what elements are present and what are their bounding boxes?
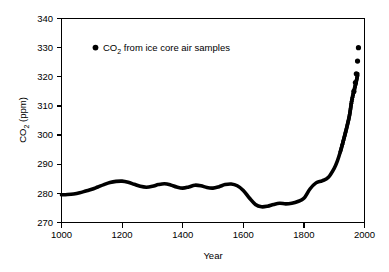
y-tick-label-270: 270 [37,217,53,228]
series-isolated-data-point [351,89,356,94]
legend-label-rest: from ice core air samples [121,42,230,53]
y-tick-label-280: 280 [37,188,53,199]
x-tick-label-1400: 1400 [172,229,193,240]
series-isolated-data-point [353,80,358,85]
y-axis-title-unit: (ppm) [17,97,28,124]
series-isolated-data-point [355,58,360,63]
x-tick-label-1800: 1800 [293,229,314,240]
x-tick-label-1600: 1600 [233,229,254,240]
legend-marker-icon [93,45,99,51]
chart-canvas: 340 330 320 310 300 290 280 270 1000 120… [0,0,389,272]
co2-ice-core-chart-figure: 340 330 320 310 300 290 280 270 1000 120… [0,0,389,272]
y-tick-label-300: 300 [37,129,53,140]
series-isolated-data-point [354,71,359,76]
x-tick-label-1200: 1200 [112,229,133,240]
svg-text:CO2 (ppm): CO2 (ppm) [17,97,30,143]
y-axis-title: CO2 (ppm) [17,97,30,143]
y-tick-label-330: 330 [37,42,53,53]
legend-label-main: CO [103,42,117,53]
y-tick-label-340: 340 [37,13,53,24]
x-tick-label-1000: 1000 [51,229,72,240]
chart-legend: CO2 from ice core air samples [93,42,231,55]
series-isolated-data-point [356,45,361,50]
y-tick-label-320: 320 [37,71,53,82]
x-tick-label-2000: 2000 [354,229,375,240]
x-axis-title: Year [203,250,222,261]
legend-label: CO2 from ice core air samples [103,42,230,55]
y-tick-label-290: 290 [37,158,53,169]
y-tick-label-310: 310 [37,100,53,111]
y-axis-title-main: CO [17,129,28,143]
